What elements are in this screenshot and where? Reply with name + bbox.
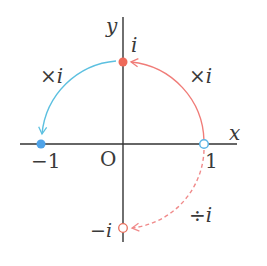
y-axis-label: y [105,14,118,38]
label-times-i-left: ×i [40,64,63,88]
label-times-i-right: ×i [189,64,212,88]
label-1: 1 [205,149,218,173]
point-minus-i [119,224,128,233]
x-axis-label: x [229,121,240,145]
complex-plane-diagram: y x O i −1 1 −i ×i ×i ÷i [0,0,267,266]
origin-label: O [100,147,116,171]
point-1 [200,140,209,149]
point-i [119,58,128,67]
label-i: i [131,33,137,57]
label-divide-i: ÷i [189,203,212,227]
label-minus-1: −1 [31,149,60,173]
label-minus-i: −i [90,219,112,241]
point-minus-1 [37,140,46,149]
